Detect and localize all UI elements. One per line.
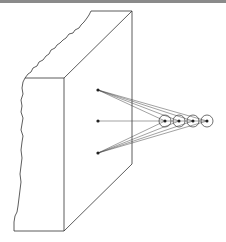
target-dot bbox=[206, 120, 209, 123]
front-face-jagged-edge bbox=[14, 78, 25, 231]
top-face-right-edge bbox=[64, 11, 132, 78]
ray-line bbox=[98, 121, 207, 153]
rays bbox=[98, 90, 207, 153]
top-face-jagged-edge bbox=[25, 11, 91, 78]
side-face-bottom-edge bbox=[64, 164, 132, 231]
ray-line bbox=[98, 90, 193, 121]
source-point-middle bbox=[96, 119, 99, 122]
ray-line bbox=[98, 90, 207, 121]
ray-line bbox=[98, 121, 165, 153]
source-points bbox=[96, 88, 99, 154]
ray-line bbox=[98, 90, 179, 121]
ray-line bbox=[98, 90, 165, 121]
target-dot bbox=[178, 120, 181, 123]
ray-line bbox=[98, 121, 179, 153]
target-dot bbox=[192, 120, 195, 123]
source-point-top bbox=[96, 88, 99, 91]
slab-diagram bbox=[0, 0, 226, 242]
target-dot bbox=[164, 120, 167, 123]
source-point-bottom bbox=[96, 151, 99, 154]
ray-line bbox=[98, 121, 193, 153]
